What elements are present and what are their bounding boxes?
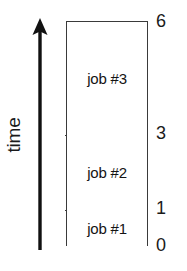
up-arrow-icon [26, 16, 54, 254]
tick-label-1: 1 [156, 199, 182, 217]
job-block-3: job #3 [67, 22, 147, 135]
job-block-2: job #2 [67, 135, 147, 210]
tick-label-3: 3 [156, 124, 182, 142]
job-block-1: job #1 [67, 210, 147, 248]
job-schedule-column: job #3 job #2 job #1 [66, 21, 148, 246]
job-block-label: job #2 [87, 164, 127, 181]
tick-label-6: 6 [156, 12, 182, 30]
time-axis-label: time [4, 99, 24, 171]
schedule-diagram: time job #3 job #2 job #1 6 3 1 0 [0, 0, 187, 271]
job-block-label: job #3 [87, 70, 127, 87]
job-block-label: job #1 [87, 220, 127, 237]
tick-label-0: 0 [156, 236, 182, 254]
